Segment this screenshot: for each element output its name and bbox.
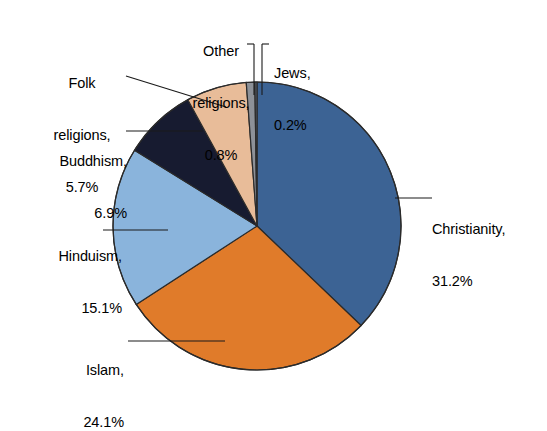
slice-label-other-religions-name-2: religions,: [168, 95, 274, 112]
slice-label-hinduism-value: 15.1%: [2, 300, 122, 317]
slice-label-other-religions-name-1: Other: [168, 43, 274, 60]
slice-label-jews-name: Jews,: [274, 65, 344, 82]
slice-label-other-religions-value: 0.8%: [168, 147, 274, 164]
slice-label-folk-religions: Folk religions, 5.7%: [28, 40, 136, 231]
slice-label-islam-value: 24.1%: [6, 414, 124, 431]
slice-label-folk-religions-name-2: religions,: [28, 127, 136, 144]
slice-label-christianity-value: 31.2%: [432, 273, 505, 290]
slice-label-jews-value: 0.2%: [274, 117, 344, 134]
slice-label-jews: Jews, 0.2%: [274, 30, 344, 169]
slice-label-christianity-name: Christianity,: [432, 221, 505, 238]
slice-label-other-religions: Other religions, 0.8%: [168, 8, 274, 199]
slice-label-islam-name: Islam,: [6, 362, 124, 379]
slice-label-folk-religions-value: 5.7%: [28, 179, 136, 196]
slice-label-christianity: Christianity, 31.2%: [432, 186, 505, 325]
slice-label-folk-religions-name-1: Folk: [28, 75, 136, 92]
